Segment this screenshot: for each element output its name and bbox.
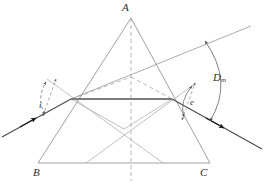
incident-ray [2, 99, 71, 137]
prism-edge-ab [38, 18, 131, 163]
lower-construction-lines [71, 99, 172, 129]
vertex-label-a: A [122, 2, 129, 13]
construction-line-left-through-prism [47, 79, 163, 163]
prism-diagram-canvas [0, 0, 266, 188]
vertex-label-b: B [33, 167, 40, 178]
upper-construction-right [131, 77, 172, 99]
incident-ray-arrowhead [20, 118, 36, 127]
angle-label-incidence: i [39, 101, 42, 110]
emergent-ray-arrowhead [206, 118, 224, 128]
vertex-label-c: C [200, 167, 207, 178]
lower-construction-left [71, 99, 124, 129]
deviation-subscript: m [221, 76, 226, 84]
prism-outline [38, 18, 210, 163]
incident-ray-extension [71, 26, 251, 99]
construction-line-right-through-prism [86, 83, 196, 163]
deviation-angle-label: Dm [213, 72, 226, 84]
prism-deviation-figure: A B C i e Dm [0, 0, 266, 188]
angle-label-emergence: e [190, 98, 194, 107]
deviation-symbol: D [213, 71, 221, 83]
prism-edge-ac [131, 18, 210, 163]
